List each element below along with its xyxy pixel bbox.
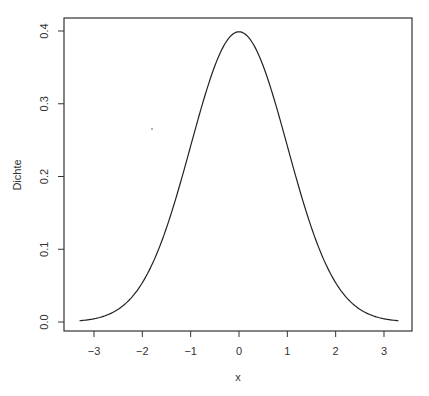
x-tick-label: −2	[136, 345, 149, 357]
x-axis-label: x	[235, 371, 241, 383]
y-tick-label: 0.1	[38, 242, 50, 257]
x-tick-label: 3	[381, 345, 387, 357]
y-tick-label: 0.0	[38, 314, 50, 329]
plot-frame	[64, 18, 412, 331]
x-tick-label: −1	[184, 345, 197, 357]
density-chart: −3−2−10123 0.00.10.20.30.4 x Dichte	[0, 0, 429, 396]
x-tick-label: 2	[333, 345, 339, 357]
scan-artifact-dot	[151, 128, 153, 130]
x-axis: −3−2−10123	[88, 331, 387, 357]
x-tick-label: 0	[236, 345, 242, 357]
y-axis: 0.00.10.20.30.4	[38, 23, 64, 329]
y-axis-label: Dichte	[11, 159, 23, 190]
x-tick-label: −3	[88, 345, 101, 357]
y-tick-label: 0.3	[38, 96, 50, 111]
y-tick-label: 0.2	[38, 169, 50, 184]
density-curve	[80, 32, 399, 321]
y-tick-label: 0.4	[38, 23, 50, 38]
x-tick-label: 1	[284, 345, 290, 357]
